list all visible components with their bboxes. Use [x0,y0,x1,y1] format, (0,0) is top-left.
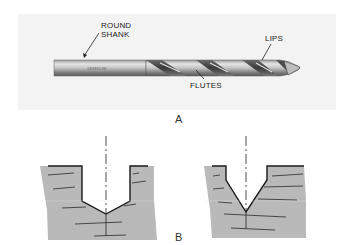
lips-label: LIPS [265,34,283,43]
figure-a-caption: A [175,113,182,125]
round-shank-label-line1: ROUND [101,21,131,30]
drill-bit: GREENLEE [54,60,300,76]
hole-section-right [204,136,306,238]
hole-section-left [40,136,157,240]
round-shank-label: ROUND SHANK [101,21,131,39]
diagram-canvas: GREENLEE [0,0,348,245]
flutes-label: FLUTES [190,81,222,90]
lips-leader [262,44,271,60]
round-shank-label-line2: SHANK [101,30,131,39]
shank-engraving: GREENLEE [87,67,107,71]
round-shank-leader [84,33,99,56]
figure-b-caption: B [175,231,182,243]
material-block-left [40,166,157,240]
